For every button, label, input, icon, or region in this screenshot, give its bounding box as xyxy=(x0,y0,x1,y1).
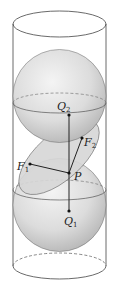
cylinder-bottom-rim-front xyxy=(13,266,106,279)
cylinder-top-rim xyxy=(13,11,106,37)
cylinder-bottom-rim-back xyxy=(13,253,106,266)
point-p xyxy=(67,171,70,174)
label-p: P xyxy=(73,170,82,183)
top-sphere xyxy=(13,50,106,143)
point-q1 xyxy=(67,209,70,212)
dandelin-spheres-diagram: Q2 F2 F1 P Q1 xyxy=(0,0,119,294)
